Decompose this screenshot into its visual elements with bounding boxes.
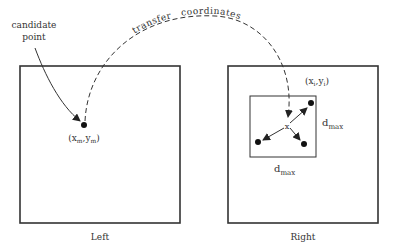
left-point-label: (xm,ym) [68,133,99,144]
right-point-label: (xi,yi) [305,76,329,87]
left-caption: Left [91,232,110,242]
dmax-side-label: dmax [322,117,343,131]
center-marker: x [285,122,290,131]
vector-to-bottom-left [263,128,284,140]
right-panel: (xi,yi) x dmax dmax Right [228,66,378,242]
diagram-canvas: (xm,ym) Left candidate point transfercoo… [0,0,394,250]
arc-label: transfercoordinates [130,6,242,36]
annotation-line2: point [22,32,46,42]
match-point-bottom-left [255,139,261,145]
dmax-bottom-label: dmax [274,163,295,177]
right-caption: Right [291,232,316,242]
annotation-line1: candidate [12,20,57,30]
vector-to-bottom-right [290,128,300,140]
transfer-arrow [85,16,289,121]
left-frame [20,66,180,223]
candidate-annotation: candidate point [12,20,80,121]
match-point-top-right [308,100,314,106]
transfer-arc: transfercoordinates [85,6,289,121]
left-panel: (xm,ym) Left [20,66,180,242]
annotation-arrow [35,48,80,121]
match-point-bottom-right [301,141,307,147]
candidate-point-dot [81,122,87,128]
search-window [250,96,316,157]
vector-to-top-right [290,108,307,123]
